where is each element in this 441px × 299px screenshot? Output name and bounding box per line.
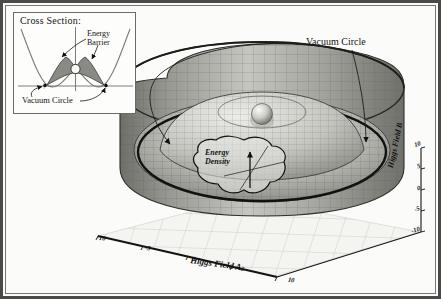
energy-density-label: Energy Density	[205, 148, 230, 166]
vacuum-minimum-right	[104, 84, 107, 87]
energy-density-line2: Density	[205, 157, 230, 166]
energy-barrier-leader-right	[92, 45, 98, 59]
energy-barrier-leader-left	[62, 39, 86, 57]
vacuum-circle-leader-right	[80, 88, 105, 101]
energy-barrier-line1: Energy	[87, 29, 110, 38]
cross-section-inset: Cross Section: Energy Barrier Vacuum Cir…	[13, 12, 136, 114]
x-tick-label: 10	[287, 276, 295, 284]
energy-barrier-line2: Barrier	[87, 38, 110, 47]
energy-density-line1: Energy	[205, 148, 230, 157]
energy-barrier-label: Energy Barrier	[87, 29, 110, 47]
cross-section-title: Cross Section:	[20, 15, 81, 26]
x-tick-label: -10	[97, 233, 107, 241]
vacuum-minimum-left	[43, 84, 46, 87]
unstable-maximum-marker	[71, 64, 80, 73]
vacuum-circle-label: Vacuum Circle	[306, 36, 366, 47]
x-tick-label: -5	[144, 244, 150, 252]
higgs-potential-figure: -10 -5 0 5 10 10 5 0 -5 -10 Higgs Field …	[0, 0, 441, 299]
unstable-vacuum-sphere	[250, 104, 274, 130]
inset-vacuum-circle-label: Vacuum Circle	[22, 95, 73, 105]
